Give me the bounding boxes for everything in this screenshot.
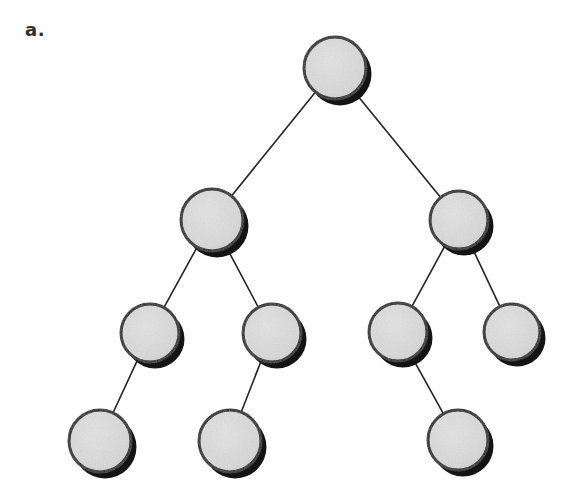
tree-node <box>484 304 546 367</box>
tree-node <box>181 189 249 258</box>
tree-node-circle <box>428 410 488 470</box>
tree-node-circle <box>369 303 427 361</box>
tree-edge <box>471 245 500 307</box>
tree-edge <box>412 356 444 414</box>
tree-node <box>243 304 307 369</box>
tree-edge <box>241 359 262 413</box>
tree-node <box>304 37 372 106</box>
tree-node <box>199 410 267 479</box>
tree-node-circle <box>181 189 243 251</box>
tree-node-circle <box>243 304 301 362</box>
tree-node <box>69 410 137 479</box>
tree-node-circle <box>199 410 261 472</box>
tree-edge <box>411 245 445 308</box>
tree-node <box>369 303 433 368</box>
figure-container: a. <box>0 0 586 504</box>
tree-diagram-canvas <box>0 0 586 504</box>
tree-edges-group <box>113 91 501 414</box>
tree-node-circle <box>484 304 540 360</box>
tree-edge <box>163 246 197 308</box>
tree-node-circle <box>430 191 488 249</box>
tree-node-circle <box>304 37 366 99</box>
figure-part-label: a. <box>25 21 45 39</box>
tree-node <box>430 191 494 256</box>
tree-node-circle <box>69 410 131 472</box>
tree-node <box>121 304 185 369</box>
tree-edge <box>113 358 139 413</box>
tree-edge <box>226 247 259 309</box>
tree-node-circle <box>121 304 179 362</box>
tree-edge <box>354 91 441 198</box>
tree-edge <box>231 91 316 196</box>
tree-node <box>428 410 494 477</box>
